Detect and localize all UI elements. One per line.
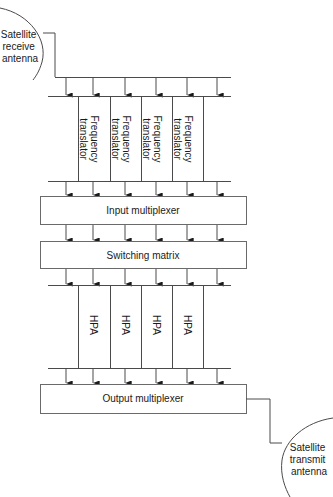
input-multiplexer-label: Input multiplexer	[106, 205, 180, 216]
transmit-antenna-label: Satellite transmit antenna	[290, 442, 328, 477]
frequency-translator-label: Frequency	[183, 115, 194, 162]
frequency-translator-label: Frequency	[89, 115, 100, 162]
output-multiplexer: Output multiplexer	[41, 385, 247, 414]
receive-antenna: Satellite receive antenna	[0, 8, 55, 80]
output-multiplexer-label: Output multiplexer	[102, 393, 184, 404]
hpa-label: HPA	[151, 315, 162, 335]
hpa-label: HPA	[120, 315, 131, 335]
receive-feed-line	[43, 33, 55, 77]
switching-matrix-label: Switching matrix	[107, 250, 180, 261]
frequency-translator-label: translator	[78, 118, 89, 160]
hpa-label: HPA	[88, 315, 99, 335]
frequency-translator-label: translator	[110, 118, 121, 160]
frequency-translator-label: Frequency	[121, 115, 132, 162]
hpa-label: HPA	[182, 315, 193, 335]
transmit-feed-line	[246, 399, 282, 443]
switching-matrix: Switching matrix	[41, 242, 247, 269]
transponder-diagram: Satellite receive antenna Frequencytrans…	[0, 0, 333, 497]
input-multiplexer: Input multiplexer	[41, 197, 247, 225]
transmit-antenna: Satellite transmit antenna	[246, 399, 333, 497]
receive-antenna-label: Satellite receive antenna	[1, 29, 39, 64]
frequency-translator-label: translator	[172, 118, 183, 160]
frequency-translator-label: translator	[141, 118, 152, 160]
frequency-translator-label: Frequency	[152, 115, 163, 162]
